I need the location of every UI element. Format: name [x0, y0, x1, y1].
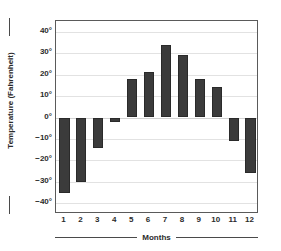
- x-axis-label: Months: [137, 233, 175, 242]
- y-axis-label: Temperature (Fahrenheit): [6, 13, 15, 189]
- chart-figure: Temperature (Fahrenheit) 40°30°20°10°0°−…: [0, 0, 281, 251]
- plot-area: [55, 20, 258, 213]
- x-tick-label-2: 2: [72, 215, 89, 225]
- y-tick-label--30: −30°: [24, 177, 52, 185]
- x-tick-label-6: 6: [140, 215, 157, 225]
- x-tick-label-10: 10: [207, 215, 224, 225]
- x-tick-label-1: 1: [55, 215, 72, 225]
- x-tick-label-4: 4: [106, 215, 123, 225]
- gridline--30: [56, 182, 257, 183]
- x-axis-label-group: Months: [55, 231, 258, 243]
- y-tick-label-20: 20°: [24, 70, 52, 78]
- gridline-10: [56, 96, 257, 97]
- gridline-40: [56, 32, 257, 33]
- x-tick-label-5: 5: [123, 215, 140, 225]
- bar-month-9: [195, 79, 205, 118]
- bar-month-8: [178, 55, 188, 117]
- bar-month-3: [93, 118, 103, 148]
- x-tick-label-3: 3: [89, 215, 106, 225]
- x-axis-ticks: 123456789101112: [55, 215, 258, 227]
- x-axis-label-rule-left: [55, 237, 137, 238]
- y-axis-ticks: 40°30°20°10°0°−10°−20°−30°−40°: [22, 0, 52, 251]
- bar-month-2: [76, 118, 86, 182]
- bar-month-10: [212, 87, 222, 117]
- x-axis-label-rule-right: [176, 237, 258, 238]
- bar-month-1: [59, 118, 69, 193]
- gridline-30: [56, 53, 257, 54]
- y-tick-label-40: 40°: [24, 27, 52, 35]
- y-tick-label-0: 0°: [24, 113, 52, 121]
- x-tick-label-7: 7: [157, 215, 174, 225]
- y-tick-label-30: 30°: [24, 48, 52, 56]
- x-tick-label-8: 8: [173, 215, 190, 225]
- y-axis-label-rule-bottom: [9, 196, 10, 214]
- gridline--40: [56, 203, 257, 204]
- y-axis-label-group: Temperature (Fahrenheit): [0, 18, 18, 214]
- bar-month-11: [229, 118, 239, 142]
- bar-month-6: [144, 72, 154, 117]
- x-tick-label-12: 12: [241, 215, 258, 225]
- bar-month-7: [161, 45, 171, 118]
- y-tick-label-10: 10°: [24, 91, 52, 99]
- gridline-20: [56, 75, 257, 76]
- bar-month-5: [127, 79, 137, 118]
- y-tick-label--10: −10°: [24, 134, 52, 142]
- bar-month-12: [245, 118, 255, 174]
- bar-month-4: [110, 118, 120, 122]
- y-tick-label--40: −40°: [24, 198, 52, 206]
- x-tick-label-11: 11: [224, 215, 241, 225]
- y-tick-label--20: −20°: [24, 155, 52, 163]
- x-tick-label-9: 9: [190, 215, 207, 225]
